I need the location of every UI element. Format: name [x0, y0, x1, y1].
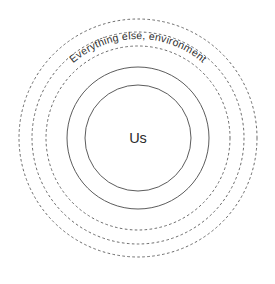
concentric-circles-diagram: Everything else, environment Us	[0, 0, 275, 284]
rings-canvas: Everything else, environment Us	[0, 0, 275, 284]
outer-ring-label: Everything else, environment	[67, 29, 209, 65]
center-label: Us	[129, 130, 147, 146]
outer-ring-label-text: Everything else, environment	[67, 29, 209, 65]
